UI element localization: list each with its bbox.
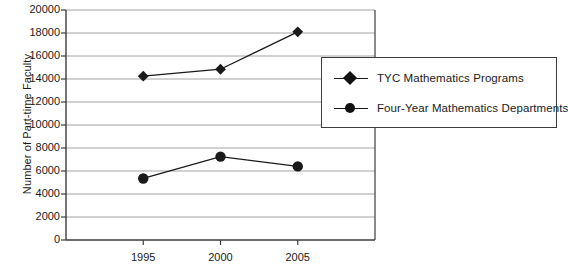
legend-label-tyc: TYC Mathematics Programs — [377, 72, 524, 84]
legend-item-tyc: TYC Mathematics Programs — [334, 71, 524, 85]
diamond-marker-icon — [334, 72, 368, 84]
chart-legend: TYC Mathematics Programs Four-Year Mathe… — [321, 57, 557, 128]
data-point-marker — [138, 71, 149, 82]
data-point-marker — [293, 161, 303, 171]
x-tick-label: 2005 — [268, 252, 328, 263]
legend-label-four-year: Four-Year Mathematics Departments — [377, 102, 568, 114]
data-point-marker — [215, 64, 226, 75]
circle-marker-icon — [334, 102, 368, 114]
data-point-marker — [138, 173, 148, 183]
x-tick-label: 2000 — [191, 252, 251, 263]
legend-item-four-year: Four-Year Mathematics Departments — [334, 101, 568, 115]
data-point-marker — [215, 151, 225, 161]
x-tick-label: 1995 — [113, 252, 173, 263]
data-point-marker — [292, 26, 303, 37]
